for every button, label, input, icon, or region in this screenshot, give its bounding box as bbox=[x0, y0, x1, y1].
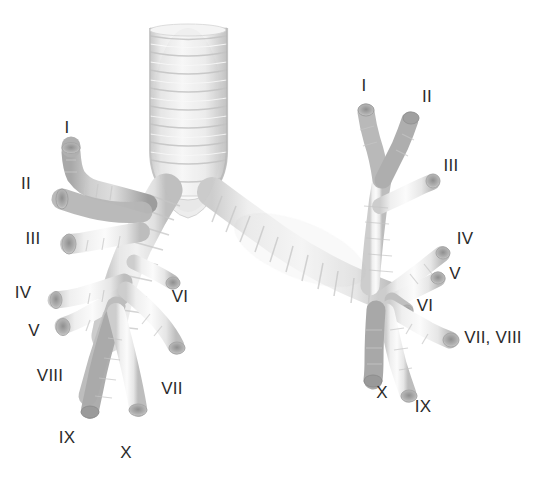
label-right-IV: IV bbox=[457, 230, 473, 247]
label-left-VI: VI bbox=[172, 288, 188, 305]
label-left-IV: IV bbox=[15, 284, 31, 301]
label-right-IX: IX bbox=[415, 398, 431, 415]
label-right-VI: VI bbox=[417, 297, 433, 314]
label-right-X: X bbox=[376, 384, 388, 401]
label-left-III: III bbox=[26, 230, 41, 247]
label-left-V: V bbox=[28, 322, 40, 339]
label-right-VII-VIII: VII, VIII bbox=[464, 329, 522, 346]
tracheobronchial-tree-illustration bbox=[0, 0, 536, 480]
bronchial-tree-figure: I II III IV V VI VII VIII IX X I II III … bbox=[0, 0, 536, 480]
label-left-VIII: VIII bbox=[37, 367, 63, 384]
label-right-I: I bbox=[362, 77, 367, 94]
label-right-V: V bbox=[449, 265, 461, 282]
label-right-III: III bbox=[444, 157, 459, 174]
label-left-IX: IX bbox=[59, 429, 75, 446]
label-left-VII: VII bbox=[161, 380, 182, 397]
label-right-II: II bbox=[422, 88, 432, 105]
label-left-X: X bbox=[120, 444, 132, 461]
label-left-I: I bbox=[65, 119, 70, 136]
label-left-II: II bbox=[21, 175, 31, 192]
